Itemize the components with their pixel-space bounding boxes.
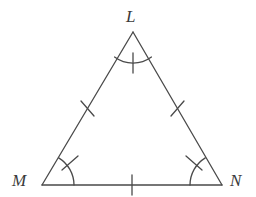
vertex-label-L: L (126, 8, 135, 25)
side-tick-marks (81, 101, 184, 195)
vertex-label-N: N (230, 172, 241, 189)
triangle-diagram-svg (0, 0, 256, 197)
side-LN-tick (171, 101, 184, 116)
side-LM-tick (81, 101, 94, 116)
geometry-figure: L M N (0, 0, 256, 197)
vertex-label-M: M (12, 172, 26, 189)
angle-tick-marks (62, 53, 202, 170)
triangle-outline (42, 32, 222, 185)
